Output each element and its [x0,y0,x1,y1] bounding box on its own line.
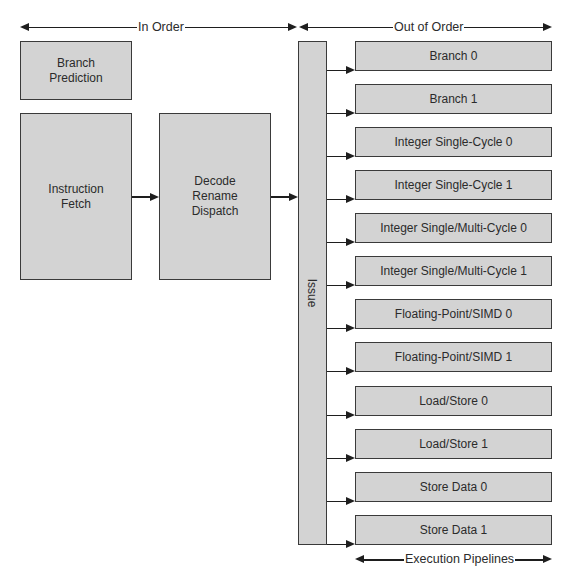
in-order-label: In Order [137,20,185,34]
pipeline-store-data-1: Store Data 1 [355,515,552,545]
pipeline-integer-single-multi-cycle-1: Integer Single/Multi-Cycle 1 [355,256,552,286]
arrowhead-right-icon [346,238,355,246]
out-of-order-label: Out of Order [393,20,464,34]
issue-arrow-line [327,328,347,330]
issue-arrow-line [327,113,347,115]
pipeline-integer-single-cycle-1: Integer Single-Cycle 1 [355,170,552,200]
pipeline-label: Integer Single-Cycle 1 [394,178,512,193]
decode-to-issue-arrow-line [271,196,291,198]
pipeline-label: Integer Single/Multi-Cycle 1 [380,264,527,279]
issue-arrow-line [327,285,347,287]
pipeline-label: Floating-Point/SIMD 0 [395,307,512,322]
pipeline-label: Branch 1 [429,92,477,107]
decode-rename-dispatch-label: Decode Rename Dispatch [192,174,239,219]
fetch-to-decode-arrow-line [132,196,152,198]
arrowhead-right-icon [543,23,552,31]
issue-label-wrap: Issue [298,41,327,545]
issue-arrow-line [327,371,347,373]
pipeline-label: Load/Store 1 [419,437,488,452]
pipeline-label: Store Data 1 [420,523,487,538]
instruction-fetch-box: Instruction Fetch [20,113,132,280]
arrowhead-right-icon [150,193,159,201]
arrowhead-right-icon [346,109,355,117]
issue-arrow-line [327,70,347,72]
pipeline-label: Integer Single-Cycle 0 [394,135,512,150]
pipeline-label: Branch 0 [429,49,477,64]
instruction-fetch-label: Instruction Fetch [48,182,103,212]
branch-prediction-label: Branch Prediction [49,56,102,86]
pipeline-store-data-0: Store Data 0 [355,472,552,502]
issue-arrow-line [327,242,347,244]
pipeline-label: Integer Single/Multi-Cycle 0 [380,221,527,236]
arrowhead-right-icon [346,367,355,375]
arrowhead-right-icon [346,66,355,74]
arrowhead-right-icon [346,540,355,548]
arrowhead-right-icon [289,193,298,201]
execution-pipelines-label: Execution Pipelines [404,552,515,566]
arrowhead-right-icon [346,497,355,505]
arrowhead-right-icon [346,152,355,160]
pipeline-label: Load/Store 0 [419,394,488,409]
arrowhead-right-icon [346,324,355,332]
pipeline-label: Store Data 0 [420,480,487,495]
pipeline-load-store-1: Load/Store 1 [355,429,552,459]
arrowhead-right-icon [346,454,355,462]
arrowhead-right-icon [543,555,552,563]
issue-arrow-line [327,458,347,460]
issue-label: Issue [306,279,320,308]
pipeline-branch-0: Branch 0 [355,41,552,71]
pipeline-integer-single-multi-cycle-0: Integer Single/Multi-Cycle 0 [355,213,552,243]
pipeline-load-store-0: Load/Store 0 [355,386,552,416]
pipeline-floating-point-simd-1: Floating-Point/SIMD 1 [355,342,552,372]
pipeline-label: Floating-Point/SIMD 1 [395,350,512,365]
pipeline-branch-1: Branch 1 [355,84,552,114]
arrowhead-right-icon [346,195,355,203]
issue-arrow-line [327,415,347,417]
issue-arrow-line [327,156,347,158]
issue-arrow-line [327,501,347,503]
issue-arrow-line [327,199,347,201]
pipeline-integer-single-cycle-0: Integer Single-Cycle 0 [355,127,552,157]
pipeline-floating-point-simd-0: Floating-Point/SIMD 0 [355,299,552,329]
arrowhead-right-icon [346,281,355,289]
issue-arrow-line [327,544,347,546]
branch-prediction-box: Branch Prediction [20,41,132,100]
arrowhead-right-icon [346,411,355,419]
decode-rename-dispatch-box: Decode Rename Dispatch [159,113,271,280]
arrowhead-right-icon [288,23,297,31]
